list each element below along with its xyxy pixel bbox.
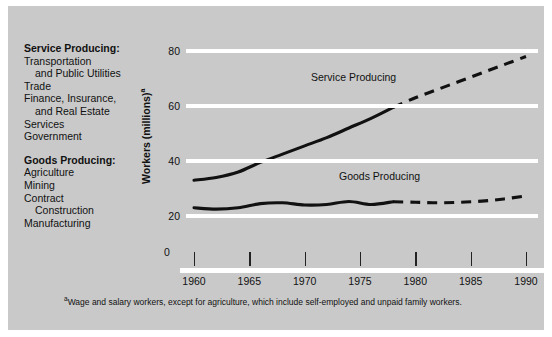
y-axis-title: Workers (millions)a: [139, 89, 152, 184]
x-axis-tick: [526, 252, 527, 266]
x-tick-label-1970: 1970: [293, 275, 316, 287]
legend-item: Construction: [24, 204, 164, 217]
x-axis-tick: [194, 252, 195, 266]
y-tick-label-20: 20: [168, 210, 180, 222]
gridline-20: 20: [186, 214, 538, 218]
x-axis-tick: [249, 252, 250, 266]
y-tick-label-0: 0: [164, 246, 170, 258]
series-goods-producing: [194, 196, 526, 209]
legend-item: Transportation: [24, 55, 164, 68]
x-tick-label-1975: 1975: [348, 275, 371, 287]
plot-area: 80 60 40 20: [186, 24, 538, 246]
x-tick-label-1990: 1990: [514, 275, 537, 287]
y-axis-title-footnote-marker: a: [139, 89, 146, 93]
goods-line-solid: [194, 201, 393, 209]
legend-item: Manufacturing: [24, 217, 164, 230]
chart-footnote: aWage and salary workers, except for agr…: [64, 295, 462, 307]
service-line-projected: [393, 57, 526, 108]
y-axis-title-text: Workers (millions): [140, 93, 152, 184]
legend-item: and Public Utilities: [24, 67, 164, 80]
gridline-40: 40: [186, 159, 538, 163]
gridline-60: 60: [186, 104, 538, 108]
x-axis-tick: [471, 252, 472, 266]
gridline-80: 80: [186, 49, 538, 53]
x-axis-bar: [180, 268, 544, 273]
x-tick-label-1985: 1985: [459, 275, 482, 287]
chart-figure: Service Producing: Transportation and Pu…: [8, 6, 544, 330]
x-tick-label-1965: 1965: [238, 275, 261, 287]
goods-line-projected: [393, 196, 526, 203]
x-axis-tick: [305, 252, 306, 266]
y-tick-label-40: 40: [168, 155, 180, 167]
y-tick-label-60: 60: [168, 100, 180, 112]
x-axis-tick: [360, 252, 361, 266]
footnote-text: Wage and salary workers, except for agri…: [68, 297, 462, 307]
x-axis-tick: [415, 252, 416, 266]
legend-item: Contract: [24, 192, 164, 205]
series-lines: [186, 24, 538, 246]
x-tick-label-1960: 1960: [182, 275, 205, 287]
legend-group-heading-service: Service Producing:: [24, 42, 164, 55]
series-label-goods: Goods Producing: [339, 170, 420, 182]
y-tick-label-80: 80: [168, 45, 180, 57]
series-label-service: Service Producing: [311, 71, 396, 83]
x-tick-label-1980: 1980: [404, 275, 427, 287]
